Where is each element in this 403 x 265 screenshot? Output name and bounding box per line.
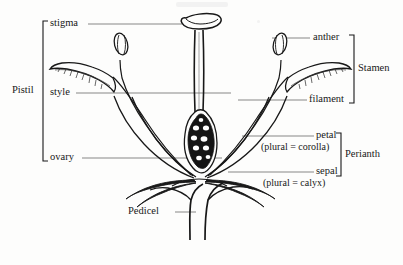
bracket-pistil [43, 21, 48, 161]
label-petal: petal [316, 130, 336, 141]
label-petal-plural: (plural = corolla) [261, 142, 329, 152]
filament-right-outer [208, 60, 281, 176]
style [194, 30, 204, 112]
anther-right-outer [271, 32, 289, 56]
label-style: style [50, 87, 70, 98]
flower-anatomy-diagram: stigma style ovary anther filament petal… [0, 0, 403, 265]
stigma [181, 14, 221, 29]
stamen-left-outer [112, 32, 193, 176]
filament-right-inner [210, 77, 288, 175]
stamen-right-outer [208, 32, 289, 176]
group-label-perianth: Perianth [345, 149, 380, 160]
label-sepal-plural: (plural = calyx) [263, 178, 325, 188]
group-label-pistil: Pistil [12, 85, 34, 96]
flower-drawing [0, 0, 403, 265]
filament-left-inner [113, 77, 191, 175]
label-ovary: ovary [50, 152, 74, 163]
sepals [126, 180, 275, 207]
ovary [184, 110, 217, 173]
label-sepal: sepal [316, 166, 338, 177]
label-pedicel: Pedicel [128, 206, 159, 217]
anther-left-outer [112, 32, 130, 56]
filament-left-outer [120, 60, 193, 176]
label-stigma: stigma [50, 18, 78, 29]
stamen-right-inner [210, 63, 351, 175]
label-anther: anther [313, 32, 339, 43]
anther-right-inner [286, 63, 351, 92]
group-label-stamen: Stamen [358, 63, 390, 74]
label-filament: filament [309, 94, 344, 105]
